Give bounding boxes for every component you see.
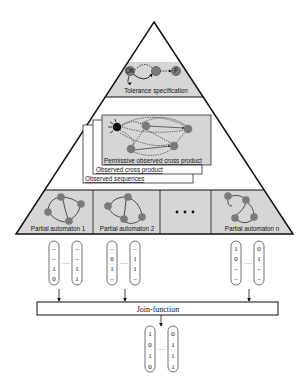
observed-sequences-label: Observed sequences [85, 175, 145, 183]
svg-text:0: 0 [257, 245, 261, 253]
svg-text:·····: ····· [62, 261, 71, 266]
svg-text:–: – [132, 275, 137, 283]
automaton-node [104, 202, 112, 210]
automaton-node [242, 196, 250, 204]
svg-text:0: 0 [234, 255, 238, 263]
tolerance-specification-label: Tolerance specification [124, 87, 188, 95]
svg-text:1: 1 [148, 330, 152, 338]
svg-text:1: 1 [171, 352, 175, 360]
svg-text:1: 1 [110, 265, 114, 273]
automaton-node [65, 217, 73, 225]
svg-text:·····: ····· [120, 261, 129, 266]
automaton-node [231, 214, 239, 222]
svg-text:1: 1 [52, 265, 56, 273]
automaton-node [44, 208, 52, 216]
partial-automaton-2-label: Partial automaton 2 [100, 225, 155, 232]
svg-text:0: 0 [148, 363, 152, 371]
svg-text:–: – [74, 245, 79, 253]
vector-group-n: 1 0 – – ····· 0 1 – – [231, 241, 264, 285]
automaton-node [138, 213, 146, 221]
cross-node [170, 142, 179, 151]
svg-text:–: – [109, 275, 114, 283]
vector-group-1: – – 1 0 ····· – – 1 1 [49, 241, 82, 285]
svg-text:–: – [132, 245, 137, 253]
vector-group-2: – 0 1 – ····· – 1 1 – [107, 241, 140, 285]
pyramid-diagram: OK F Tolerance specification Observed se… [0, 0, 305, 389]
automaton-node [77, 200, 85, 208]
svg-text:1: 1 [133, 255, 137, 263]
automaton-node [250, 213, 258, 221]
svg-text:–: – [233, 275, 238, 283]
cross-node [142, 122, 151, 131]
cross-node [127, 145, 136, 154]
svg-text:1: 1 [171, 341, 175, 349]
svg-text:–: – [51, 255, 56, 263]
svg-text:0: 0 [148, 341, 152, 349]
svg-text:·····: ····· [158, 347, 167, 352]
cross-node [184, 125, 193, 134]
svg-text:–: – [74, 255, 79, 263]
partial-automaton-n-label: Partial automaton n [225, 225, 280, 232]
ok-state-label: OK [125, 67, 135, 74]
observed-cross-product-label: Observed cross product [96, 166, 163, 174]
svg-text:1: 1 [133, 265, 137, 273]
fail-state-label: F [174, 67, 178, 74]
svg-text:1: 1 [75, 275, 79, 283]
svg-text:–: – [256, 265, 261, 273]
join-function-label: Join-function [137, 305, 180, 314]
svg-text:0: 0 [171, 330, 175, 338]
svg-text:1: 1 [234, 245, 238, 253]
svg-text:1: 1 [75, 265, 79, 273]
svg-text:–: – [51, 245, 56, 253]
svg-text:–: – [233, 265, 238, 273]
svg-text:–: – [109, 245, 114, 253]
svg-text:1: 1 [171, 363, 175, 371]
permissive-observed-cross-product-label: Permissive observed cross product [104, 157, 202, 165]
svg-text:0: 0 [52, 275, 56, 283]
svg-text:1: 1 [257, 255, 261, 263]
partial-automaton-1-label: Partial automaton 1 [31, 225, 86, 232]
automaton-node [224, 192, 232, 200]
output-vectors: 1 0 1 0 ····· 0 1 1 1 [145, 326, 178, 372]
svg-text:·····: ····· [244, 261, 253, 266]
svg-text:1: 1 [148, 352, 152, 360]
automaton-node [57, 193, 65, 201]
automaton-node [124, 193, 132, 201]
svg-text:0: 0 [110, 255, 114, 263]
automaton-node [120, 215, 128, 223]
neutral-state-node [151, 66, 160, 75]
initial-state-node [113, 123, 122, 132]
svg-text:–: – [256, 275, 261, 283]
